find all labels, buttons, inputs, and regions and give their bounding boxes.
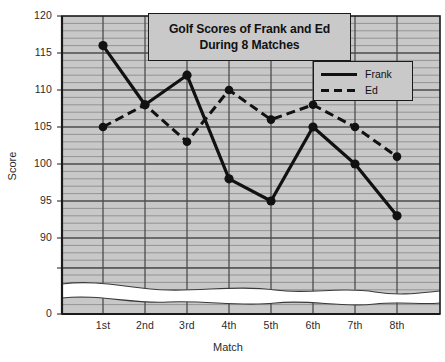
y-tick-label: 120 [12,9,52,21]
y-tick-label: 115 [12,46,52,58]
chart-legend: Frank Ed [313,61,413,101]
data-point-frank-match-2 [140,100,149,109]
chart-title-box: Golf Scores of Frank and Ed During 8 Mat… [148,13,351,61]
y-tick-label: 105 [12,120,52,132]
data-point-frank-match-7 [350,159,359,168]
x-tick-label: 1st [80,319,126,331]
y-axis-title: Score [6,136,18,196]
y-tick-label: 100 [12,157,52,169]
golf-scores-line-chart: 120 115 110 105 100 95 90 0 1st 2nd 3rd … [0,0,445,362]
legend-solid-line-icon [321,68,357,80]
data-point-ed-match-4 [225,86,234,95]
y-tick-label: 110 [12,83,52,95]
data-point-frank-match-3 [182,71,191,80]
data-point-frank-match-6 [308,122,317,131]
x-tick-label: 4th [206,319,252,331]
data-point-ed-match-3 [183,138,192,147]
x-tick-label: 2nd [122,319,168,331]
x-tick-label: 3rd [164,319,210,331]
x-tick-label: 6th [290,319,336,331]
data-point-frank-match-4 [224,174,233,183]
data-point-frank-match-1 [98,41,107,50]
data-point-ed-match-6 [309,101,318,110]
data-point-frank-match-5 [266,196,275,205]
data-point-ed-match-8 [393,152,402,161]
data-point-ed-match-1 [99,123,108,132]
data-point-frank-match-8 [392,211,401,220]
data-point-ed-match-7 [351,123,360,132]
y-tick-label: 0 [12,307,52,319]
data-point-ed-match-5 [267,115,276,124]
chart-title-line-2: During 8 Matches [200,37,300,53]
legend-item-frank: Frank [321,66,412,82]
y-tick-label: 90 [12,231,52,243]
x-axis-title: Match [178,341,278,353]
x-tick-label: 5th [248,319,294,331]
legend-dashed-line-icon [321,84,357,96]
legend-label-frank: Frank [365,68,392,80]
y-tick-label: 95 [12,194,52,206]
chart-title-line-1: Golf Scores of Frank and Ed [169,21,330,37]
x-tick-label: 8th [374,319,420,331]
x-tick-label: 7th [332,319,378,331]
legend-label-ed: Ed [365,84,378,96]
legend-item-ed: Ed [321,82,412,98]
